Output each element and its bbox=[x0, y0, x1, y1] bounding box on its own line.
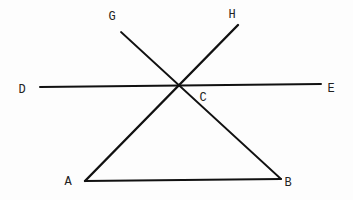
point-label-a: A bbox=[64, 176, 71, 188]
segment-ab bbox=[85, 179, 281, 181]
segment-ah bbox=[85, 25, 238, 181]
segment-gb bbox=[121, 32, 281, 179]
diagram-canvas bbox=[0, 0, 353, 200]
point-label-c: C bbox=[199, 92, 206, 104]
point-label-d: D bbox=[18, 84, 25, 96]
point-label-e: E bbox=[327, 83, 334, 95]
geometry-figure: A B C D E G H bbox=[0, 0, 353, 200]
point-label-g: G bbox=[108, 11, 115, 23]
point-label-h: H bbox=[228, 9, 235, 21]
point-label-b: B bbox=[284, 177, 291, 189]
